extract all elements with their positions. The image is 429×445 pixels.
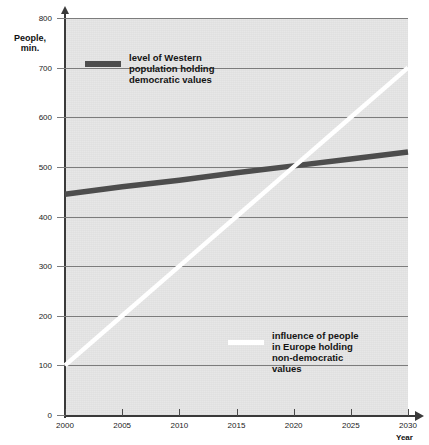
x-tick-label-2030: 2030 (399, 421, 417, 430)
y-tick-500 (57, 167, 65, 168)
legend-label-democratic: level of Western population holding demo… (129, 52, 214, 85)
y-tick-label-500: 500 (39, 162, 52, 171)
y-axis-title-line-2: min. (2, 43, 58, 53)
legend-non-democratic-values: influence of people in Europe holding no… (228, 330, 359, 374)
y-tick-400 (57, 217, 65, 218)
x-axis-line (64, 415, 417, 417)
y-axis-title: People, min. (2, 33, 58, 53)
x-tick-label-2020: 2020 (285, 421, 303, 430)
legend-swatch-non-democratic (228, 340, 264, 345)
legend-swatch-democratic (85, 61, 121, 67)
series-line-1 (65, 68, 408, 366)
legend-label-non-democratic: influence of people in Europe holding no… (272, 330, 359, 374)
y-tick-label-300: 300 (39, 262, 52, 271)
y-tick-300 (57, 266, 65, 267)
y-tick-800 (57, 18, 65, 19)
series-line-0 (65, 152, 408, 194)
x-tick-label-2015: 2015 (228, 421, 246, 430)
y-tick-label-0: 0 (48, 411, 52, 420)
x-tick-label-2025: 2025 (342, 421, 360, 430)
y-tick-700 (57, 68, 65, 69)
y-tick-label-700: 700 (39, 63, 52, 72)
y-axis-arrow-icon (61, 6, 69, 14)
x-axis-arrow-icon (415, 411, 424, 421)
y-tick-label-600: 600 (39, 113, 52, 122)
line-chart: 0100200300400500600700800 20002005201020… (0, 0, 429, 445)
y-tick-100 (57, 365, 65, 366)
y-tick-label-100: 100 (39, 361, 52, 370)
y-tick-label-800: 800 (39, 14, 52, 23)
legend-democratic-values: level of Western population holding demo… (85, 52, 214, 85)
y-axis-title-line-1: People, (2, 33, 58, 43)
y-tick-label-200: 200 (39, 311, 52, 320)
x-axis-title: Year (396, 433, 413, 442)
x-tick-2030 (408, 409, 409, 416)
y-tick-label-400: 400 (39, 212, 52, 221)
y-tick-200 (57, 316, 65, 317)
y-tick-0 (57, 415, 65, 416)
x-tick-label-2010: 2010 (170, 421, 188, 430)
x-tick-label-2005: 2005 (113, 421, 131, 430)
y-tick-600 (57, 117, 65, 118)
x-tick-label-2000: 2000 (56, 421, 74, 430)
